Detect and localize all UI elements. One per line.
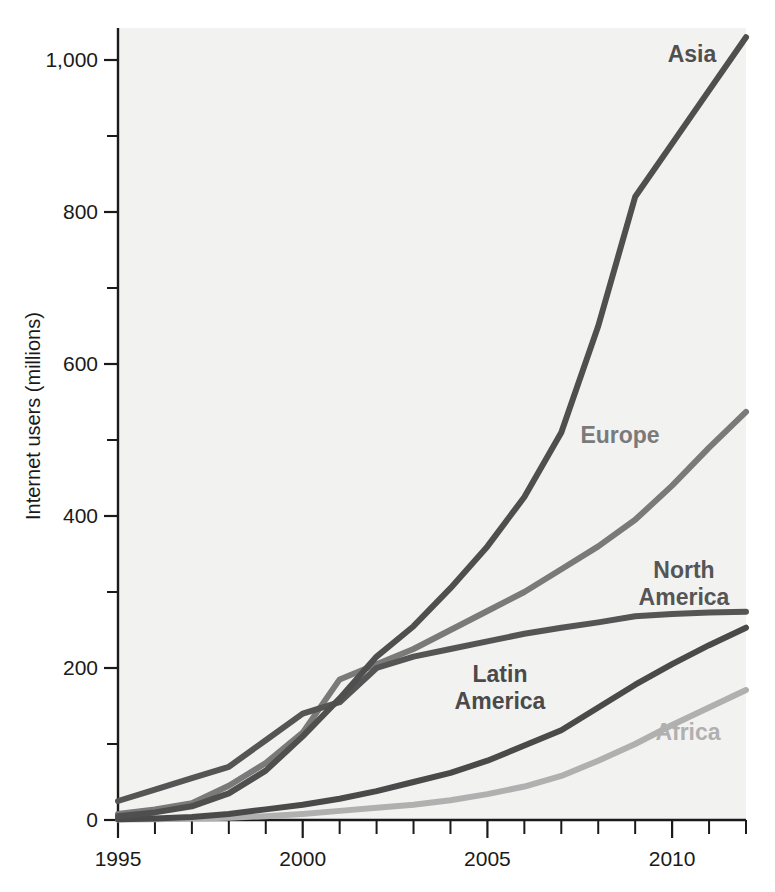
series-label-line: Asia	[668, 41, 717, 67]
series-label-line: America	[455, 688, 546, 714]
x-axis-ticks	[118, 820, 746, 838]
y-tick-label: 800	[63, 200, 98, 223]
x-axis-tick-labels: 1995200020052010	[95, 847, 696, 870]
chart-figure: 02004006008001,000 1995200020052010 Asia…	[0, 0, 775, 892]
y-axis-title: Internet users (millions)	[22, 312, 44, 520]
series-label-line: America	[639, 584, 730, 610]
series-label-line: North	[653, 557, 714, 583]
y-tick-label: 600	[63, 352, 98, 375]
y-axis-tick-labels: 02004006008001,000	[45, 48, 98, 831]
internet-users-line-chart: 02004006008001,000 1995200020052010 Asia…	[0, 0, 775, 892]
x-tick-label: 1995	[95, 847, 142, 870]
x-tick-label: 2005	[464, 847, 511, 870]
series-label-europe: Europe	[580, 422, 659, 448]
y-tick-label: 1,000	[45, 48, 98, 71]
y-tick-label: 400	[63, 504, 98, 527]
y-tick-label: 0	[86, 808, 98, 831]
x-tick-label: 2000	[279, 847, 326, 870]
series-label-line: Latin	[473, 661, 528, 687]
x-tick-label: 2010	[649, 847, 696, 870]
series-label-line: Europe	[580, 422, 659, 448]
series-label-line: Africa	[655, 719, 720, 745]
y-tick-label: 200	[63, 656, 98, 679]
series-label-africa: Africa	[655, 719, 720, 745]
y-axis-ticks	[104, 60, 118, 820]
series-label-asia: Asia	[668, 41, 717, 67]
